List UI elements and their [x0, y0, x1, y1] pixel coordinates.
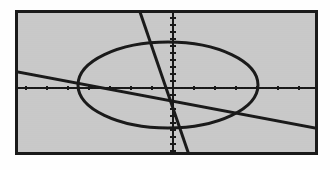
screenshot-root	[0, 0, 330, 170]
graph-window[interactable]	[15, 10, 318, 155]
ellipse	[78, 42, 258, 128]
line-positive-slope	[18, 13, 315, 152]
line-negative-slope	[18, 13, 315, 152]
graph-plot-canvas[interactable]	[18, 13, 315, 152]
